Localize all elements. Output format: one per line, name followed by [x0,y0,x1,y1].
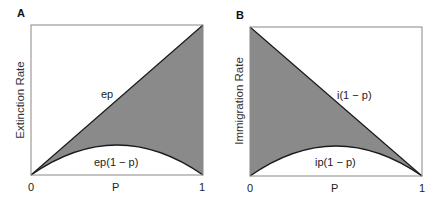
panel-b-lower-label: ip(1 − p) [315,156,356,168]
panel-a-upper-label: ep [101,88,113,100]
panel-b: B i(1 − p) ip(1 − p) 0 1 P Immigration R… [233,9,425,194]
panel-b-upper-label: i(1 − p) [337,89,372,101]
panel-b-xtick-1: 1 [419,182,425,194]
panel-a-xtick-1: 1 [199,181,205,193]
panel-a: A ep ep(1 − p) 0 1 P Extinction Rate [14,7,205,193]
panel-a-letter: A [17,7,25,19]
panel-a-lower-label: ep(1 − p) [94,156,138,168]
panel-a-xtick-0: 0 [28,181,34,193]
panel-b-ylabel: Immigration Rate [233,57,245,145]
figure: A ep ep(1 − p) 0 1 P Extinction Rate B i… [0,0,434,200]
panel-a-ylabel: Extinction Rate [14,61,26,138]
panel-b-letter: B [236,9,244,21]
panel-b-xlabel: P [331,182,338,194]
panel-a-xlabel: P [112,181,119,193]
panel-b-xtick-0: 0 [247,182,253,194]
